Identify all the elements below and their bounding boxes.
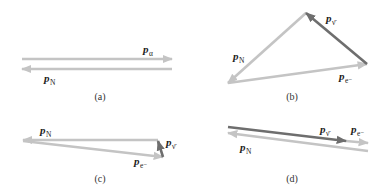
labels-layer: pαpNpν̄pNpe⁻pNpν̄pe⁻pν̄pe⁻pN — [39, 12, 364, 170]
vector-p-antineutrino-arrow — [158, 141, 163, 157]
vector-p-e-minus-arrow — [346, 141, 368, 143]
vector-label: pe⁻ — [133, 155, 147, 170]
vector-label: pe⁻ — [338, 70, 352, 85]
vector-label: pe⁻ — [350, 123, 364, 138]
vector-label: pN — [39, 124, 52, 139]
vector-p-N-arrow — [228, 13, 306, 83]
vector-label: pN — [43, 72, 56, 87]
panel-caption: (a) — [94, 91, 105, 103]
panel-caption: (b) — [286, 91, 298, 103]
panel-caption: (c) — [94, 173, 105, 185]
vector-p-antineutrino-arrow — [306, 13, 367, 64]
vector-label: pν̄ — [325, 12, 337, 27]
panel-caption: (d) — [286, 173, 298, 185]
panel-b — [228, 13, 367, 83]
vector-label: pN — [232, 50, 245, 65]
vector-label: pν̄ — [165, 136, 177, 151]
vector-p-e-minus-arrow — [23, 141, 163, 157]
vectors-layer — [22, 13, 368, 157]
vector-label: pN — [239, 141, 252, 156]
panel-a — [22, 59, 172, 69]
panel-c — [23, 140, 163, 157]
vector-label: pα — [142, 43, 153, 58]
vector-label: pν̄ — [319, 123, 331, 138]
momentum-vector-diagram: pαpNpν̄pNpe⁻pNpν̄pe⁻pν̄pe⁻pN (a)(b)(c)(d… — [0, 0, 390, 195]
